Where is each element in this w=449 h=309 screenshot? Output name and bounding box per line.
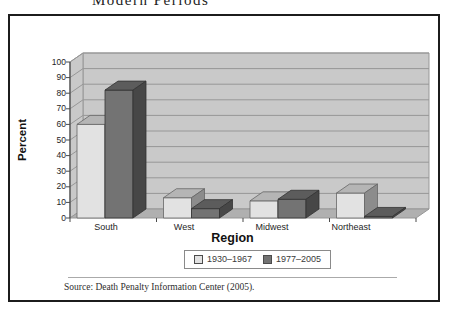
legend-label: 1977–2005 <box>276 254 321 264</box>
y-tick-label: 90 <box>40 73 66 82</box>
chart-shape <box>133 81 146 218</box>
y-tick-label: 0 <box>40 214 66 223</box>
source-divider-rule <box>68 277 397 278</box>
y-tick-label: 60 <box>40 120 66 129</box>
chart-shape <box>164 198 192 218</box>
y-tick-label: 100 <box>40 58 66 67</box>
legend-item-1977-2005: 1977–2005 <box>263 254 321 264</box>
chart-shape <box>105 90 133 218</box>
source-note: Source: Death Penalty Information Center… <box>64 282 254 292</box>
legend-item-1930-1967: 1930–1967 <box>194 254 252 264</box>
x-tick-label-northeast: Northeast <box>316 222 386 232</box>
y-tick-label: 30 <box>40 167 66 176</box>
x-tick-label-south: South <box>71 222 141 232</box>
chart-shape <box>337 193 365 218</box>
legend-swatch-icon <box>263 255 272 264</box>
y-axis-title: Percent <box>16 119 28 161</box>
y-tick-label: 20 <box>40 182 66 191</box>
legend: 1930–19671977–2005 <box>184 250 331 269</box>
x-axis-title: Region <box>160 231 305 245</box>
chart-shape <box>250 201 278 218</box>
y-tick-label: 80 <box>40 89 66 98</box>
chart-shape <box>192 209 220 218</box>
figure-page: Modern Periods 0102030405060708090100 So… <box>0 0 449 309</box>
chart-shape <box>278 199 306 218</box>
chart-shape <box>77 124 105 218</box>
y-tick-label: 70 <box>40 104 66 113</box>
y-tick-label: 50 <box>40 136 66 145</box>
y-tick-label: 10 <box>40 198 66 207</box>
legend-label: 1930–1967 <box>207 254 252 264</box>
legend-swatch-icon <box>194 255 203 264</box>
y-tick-label: 40 <box>40 151 66 160</box>
